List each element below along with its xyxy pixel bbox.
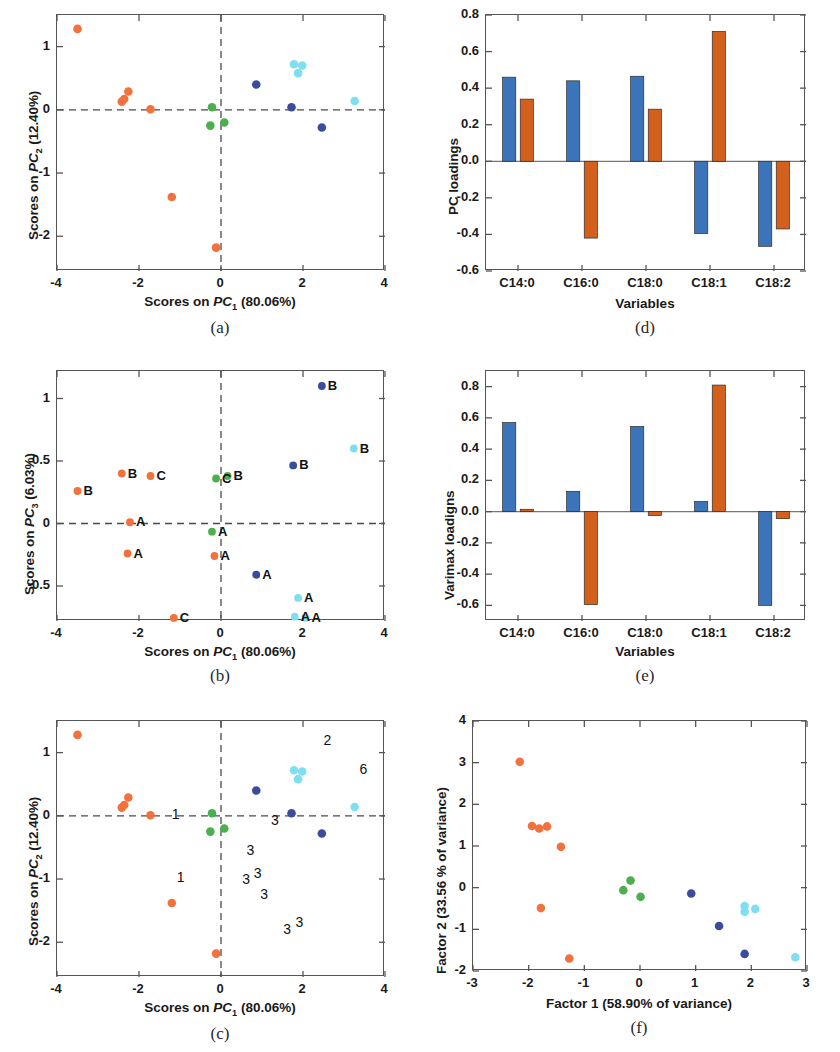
- x-tick-label: -2: [118, 625, 158, 640]
- panel-c-plot-area: 26133133333: [56, 720, 384, 976]
- panel-d-canvas: [486, 15, 806, 271]
- x-tick-label: -3: [452, 975, 492, 990]
- cluster-annotation: 6: [360, 761, 368, 777]
- y-tick-label: -1: [10, 164, 50, 179]
- x-tick-label: -4: [36, 625, 76, 640]
- panel-a-plot-area: [56, 14, 384, 270]
- y-tick-label: -1: [10, 870, 50, 885]
- panel-f-xlabel: Factor 1 (58.90% of variance): [472, 996, 806, 1011]
- panel-e-xlabel: Variables: [485, 644, 805, 659]
- x-tick-label: 1: [675, 975, 715, 990]
- y-tick-label: -2: [10, 227, 50, 242]
- panel-a: Scores on PC2 (12.40%) 10-1-2 -4-2024 Sc…: [0, 0, 420, 345]
- panel-a-xlabel: Scores on PC1 (80.06%): [56, 294, 384, 312]
- point-label: A: [218, 524, 227, 539]
- y-tick-label: 1: [10, 744, 50, 759]
- panel-b: Scores on PC3 (6.03%) 10.50-0.5 BBCAACBA…: [0, 352, 420, 700]
- y-tick-label: 0.5: [10, 452, 50, 467]
- x-tick-label: 4: [364, 981, 404, 996]
- x-tick-label: -1: [563, 975, 603, 990]
- panel-d-xlabel: Variables: [485, 296, 805, 311]
- category-tick-label: C16:0: [547, 625, 615, 640]
- panel-b-canvas: [57, 371, 385, 621]
- panel-f-canvas: [473, 721, 807, 971]
- panel-e: Varimax loadigns 0.80.60.40.20.0-0.2-0.4…: [420, 352, 840, 700]
- y-tick-label: 0.6: [435, 43, 479, 58]
- y-tick-label: 0.0: [435, 503, 479, 518]
- point-label: A: [134, 546, 143, 561]
- panel-d-caption: (d): [485, 318, 805, 338]
- panel-e-plot-area: [485, 370, 805, 620]
- point-label: B: [234, 468, 243, 483]
- y-tick-label: -0.2: [435, 189, 479, 204]
- point-label: A: [220, 548, 229, 563]
- panel-b-caption: (b): [56, 666, 384, 686]
- y-tick-label: -2: [10, 933, 50, 948]
- cluster-annotation: 3: [283, 921, 291, 937]
- y-tick-label: 0.2: [435, 116, 479, 131]
- x-tick-label: 2: [282, 275, 322, 290]
- x-tick-label: 3: [786, 975, 826, 990]
- x-tick-label: 0: [619, 975, 659, 990]
- y-tick-label: -0.4: [435, 225, 479, 240]
- point-label: A: [304, 590, 313, 605]
- y-tick-label: 1: [10, 390, 50, 405]
- panel-c-xlabel: Scores on PC1 (80.06%): [56, 1000, 384, 1018]
- category-tick-label: C18:2: [739, 625, 807, 640]
- y-tick-label: 1: [426, 837, 466, 852]
- x-tick-label: -2: [118, 275, 158, 290]
- cluster-annotation: 1: [172, 806, 180, 822]
- cluster-annotation: 3: [271, 812, 279, 828]
- point-label: A: [311, 610, 320, 625]
- figure-pca-analysis: Scores on PC2 (12.40%) 10-1-2 -4-2024 Sc…: [0, 0, 840, 1052]
- category-tick-label: C18:1: [675, 275, 743, 290]
- point-label: B: [328, 378, 337, 393]
- x-tick-label: -4: [36, 981, 76, 996]
- panel-c-caption: (c): [56, 1024, 384, 1044]
- y-tick-label: 4: [426, 712, 466, 727]
- y-tick-label: 0.8: [435, 6, 479, 21]
- x-tick-label: 2: [730, 975, 770, 990]
- y-tick-label: 0: [10, 807, 50, 822]
- y-tick-label: 2: [426, 795, 466, 810]
- y-tick-label: -1: [426, 920, 466, 935]
- category-tick-label: C16:0: [547, 275, 615, 290]
- panel-c: Scores on PC2 (12.40%) 10-1-2 2613313333…: [0, 706, 420, 1052]
- category-tick-label: C14:0: [483, 275, 551, 290]
- x-tick-label: -4: [36, 275, 76, 290]
- panel-f-caption: (f): [472, 1018, 806, 1038]
- point-label: B: [128, 466, 137, 481]
- y-tick-label: 1: [10, 38, 50, 53]
- point-label: C: [180, 610, 189, 625]
- y-tick-label: 0.6: [435, 409, 479, 424]
- x-tick-label: 2: [282, 625, 322, 640]
- point-label: A: [262, 567, 271, 582]
- category-tick-label: C14:0: [483, 625, 551, 640]
- cluster-annotation: 3: [260, 886, 268, 902]
- category-tick-label: C18:1: [675, 625, 743, 640]
- panel-e-canvas: [486, 371, 806, 621]
- point-label: C: [222, 471, 231, 486]
- cluster-annotation: 3: [246, 842, 254, 858]
- y-tick-label: 0.0: [435, 152, 479, 167]
- x-tick-label: 4: [364, 625, 404, 640]
- x-tick-label: -2: [118, 981, 158, 996]
- point-label: B: [299, 457, 308, 472]
- point-label: A: [301, 609, 310, 624]
- y-tick-label: -0.6: [435, 262, 479, 277]
- cluster-annotation: 3: [296, 914, 304, 930]
- y-tick-label: 0.8: [435, 378, 479, 393]
- x-tick-label: -2: [508, 975, 548, 990]
- y-tick-label: 0: [10, 101, 50, 116]
- cluster-annotation: 2: [324, 732, 332, 748]
- y-tick-label: 3: [426, 754, 466, 769]
- panel-a-caption: (a): [56, 318, 384, 338]
- panel-b-xlabel: Scores on PC1 (80.06%): [56, 644, 384, 662]
- y-tick-label: 0.2: [435, 471, 479, 486]
- x-tick-label: 2: [282, 981, 322, 996]
- panel-f: Factor 2 (33.56 % of variance) 43210-1-2…: [420, 706, 840, 1052]
- category-tick-label: C18:2: [739, 275, 807, 290]
- panel-d-plot-area: [485, 14, 805, 270]
- y-tick-label: 0.4: [435, 79, 479, 94]
- y-tick-label: -0.4: [435, 565, 479, 580]
